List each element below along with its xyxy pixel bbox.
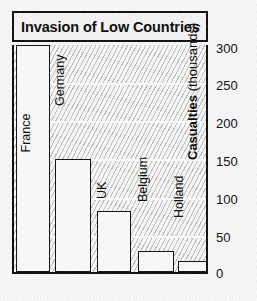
ytick-label-200: 200 bbox=[216, 116, 238, 131]
y-axis: 300 250 200 150 100 50 0 bbox=[208, 45, 257, 274]
bar-label-uk: UK bbox=[95, 182, 109, 199]
ytick-label-250: 250 bbox=[216, 78, 238, 93]
ytick-label-100: 100 bbox=[216, 192, 238, 207]
bar-label-holland: Holland bbox=[172, 176, 186, 218]
y-axis-title: Casualties (thousands) bbox=[185, 23, 200, 160]
y-axis-title-main: Casualties bbox=[185, 95, 200, 160]
ytick-label-0: 0 bbox=[216, 266, 223, 281]
plot-area: France Germany UK Belgium Holland bbox=[12, 45, 208, 274]
bar-germany[interactable] bbox=[55, 159, 91, 272]
bar-label-belgium: Belgium bbox=[136, 157, 150, 202]
ytick-label-50: 50 bbox=[216, 230, 230, 245]
bar-holland[interactable] bbox=[178, 261, 208, 272]
bar-uk[interactable] bbox=[97, 211, 131, 272]
y-axis-title-unit: (thousands) bbox=[185, 23, 200, 95]
ytick-label-300: 300 bbox=[216, 41, 238, 56]
chart-figure: Invasion of Low Countries France Germany… bbox=[0, 0, 257, 301]
bar-france[interactable]: France bbox=[16, 45, 50, 272]
ytick-label-150: 150 bbox=[216, 154, 238, 169]
page-title: Invasion of Low Countries bbox=[14, 19, 200, 35]
bar-label-france: France bbox=[19, 114, 33, 153]
bar-label-germany: Germany bbox=[53, 55, 67, 106]
bar-belgium[interactable] bbox=[138, 251, 174, 272]
chart-title-box: Invasion of Low Countries bbox=[12, 11, 208, 42]
